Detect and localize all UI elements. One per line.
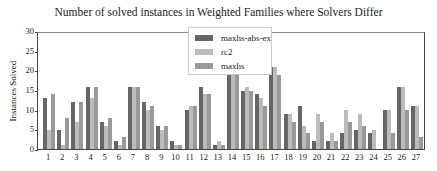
x-tick-label: 12 (197, 152, 211, 162)
x-tick-label: 16 (253, 152, 267, 162)
legend-item-maxhs: maxhs (195, 60, 245, 72)
bar-maxhs-22 (348, 122, 352, 149)
y-tick-label: 5 (16, 124, 34, 134)
bar-maxhs-18 (292, 122, 296, 149)
x-tick-label: 21 (324, 152, 338, 162)
x-tick-label: 25 (381, 152, 395, 162)
x-tick-label: 20 (310, 152, 324, 162)
x-tick-label: 2 (55, 152, 69, 162)
bar-maxhs-13 (221, 145, 225, 149)
bar-maxhs-9 (164, 126, 168, 149)
x-tick-label: 17 (267, 152, 281, 162)
chart-title: Number of solved instances in Weighted F… (0, 6, 437, 18)
x-tick-label: 27 (409, 152, 423, 162)
bar-maxhs-10 (178, 145, 182, 149)
bar-maxhs-1 (51, 94, 55, 149)
x-tick-label: 3 (69, 152, 83, 162)
bar-maxhs-27 (419, 137, 423, 149)
x-tick-label: 19 (296, 152, 310, 162)
x-tick-label: 22 (338, 152, 352, 162)
x-tick-label: 8 (140, 152, 154, 162)
x-tick-label: 24 (366, 152, 380, 162)
x-tick-label: 18 (282, 152, 296, 162)
legend-item-rc2: rc2 (195, 46, 233, 58)
legend-label: maxhs (221, 61, 245, 71)
x-tick-label: 7 (126, 152, 140, 162)
legend-swatch-icon (195, 35, 213, 41)
x-tick-label: 23 (352, 152, 366, 162)
bar-rc2-24 (372, 130, 376, 150)
bar-maxhs-8 (150, 106, 154, 149)
legend-swatch-icon (195, 63, 213, 69)
x-tick-label: 26 (395, 152, 409, 162)
bar-maxhs-15 (249, 91, 253, 150)
y-tick-label: 0 (16, 144, 34, 154)
x-tick-label: 5 (98, 152, 112, 162)
y-tick-label: 25 (16, 46, 34, 56)
x-tick-label: 13 (211, 152, 225, 162)
bar-maxhs-7 (136, 87, 140, 149)
x-tick-label: 14 (225, 152, 239, 162)
bar-maxhs-14 (235, 75, 239, 149)
bar-maxhs-2 (65, 118, 69, 149)
bar-maxhs-23 (362, 126, 366, 149)
x-tick-label: 11 (183, 152, 197, 162)
bar-maxhs-21 (334, 141, 338, 149)
y-tick-label: 10 (16, 105, 34, 115)
legend-swatch-icon (195, 49, 213, 55)
bar-maxhs-20 (320, 122, 324, 149)
x-tick-label: 10 (168, 152, 182, 162)
bar-maxhs-25 (391, 133, 395, 149)
bar-maxhs-6 (122, 137, 126, 149)
legend-label: rc2 (221, 47, 233, 57)
legend-item-maxhs-abs-ex: maxhs-abs-ex (195, 32, 271, 44)
legend-label: maxhs-abs-ex (221, 33, 271, 43)
x-tick-label: 15 (239, 152, 253, 162)
y-tick-label: 30 (16, 26, 34, 36)
x-tick-label: 4 (84, 152, 98, 162)
x-tick-label: 6 (112, 152, 126, 162)
bar-maxhs-3 (79, 102, 83, 149)
x-tick-label: 1 (41, 152, 55, 162)
bar-maxhs-5 (108, 118, 112, 149)
bar-maxhs-26 (405, 110, 409, 149)
x-tick-label: 9 (154, 152, 168, 162)
bar-maxhs-12 (207, 94, 211, 149)
bar-maxhs-17 (277, 75, 281, 149)
legend: maxhs-abs-ex rc2 maxhs (188, 27, 272, 75)
y-tick-label: 20 (16, 65, 34, 75)
y-tick-label: 15 (16, 85, 34, 95)
bar-maxhs-16 (263, 106, 267, 149)
bar-maxhs-19 (306, 133, 310, 149)
bar-maxhs-4 (94, 87, 98, 149)
bar-maxhs-11 (193, 106, 197, 149)
